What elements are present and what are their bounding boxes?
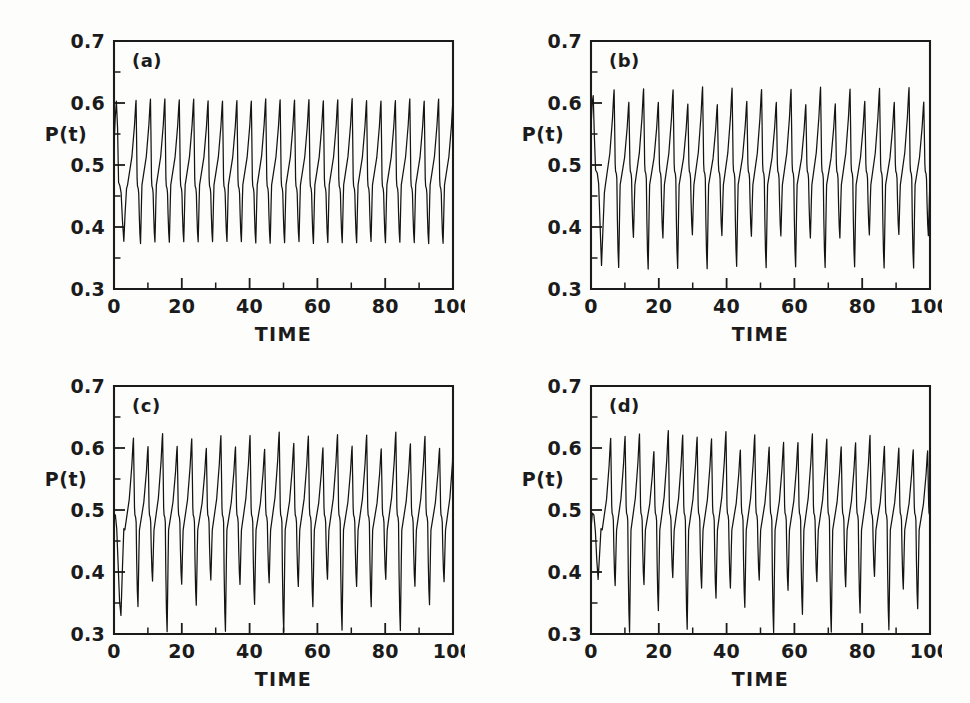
x-axis-title: TIME bbox=[732, 323, 790, 345]
x-tick-label: 100 bbox=[910, 640, 942, 662]
x-tick-label: 60 bbox=[304, 640, 331, 662]
trace-group bbox=[114, 432, 453, 632]
data-trace bbox=[591, 431, 930, 633]
panel-a-svg: 0.30.40.50.60.7020406080100P(t)TIME(a) bbox=[10, 8, 465, 348]
panel-label: (b) bbox=[609, 50, 640, 71]
trace-group bbox=[591, 87, 930, 269]
figure-root: 0.30.40.50.60.7020406080100P(t)TIME(a) 0… bbox=[0, 0, 970, 703]
x-tick-label: 80 bbox=[849, 640, 876, 662]
y-tick-label: 0.3 bbox=[70, 623, 105, 645]
x-tick-label: 20 bbox=[168, 640, 195, 662]
panel-label: (a) bbox=[132, 50, 162, 71]
x-axis-title: TIME bbox=[255, 323, 313, 345]
trace-group bbox=[591, 431, 930, 633]
y-tick-label: 0.7 bbox=[547, 30, 582, 52]
x-tick-label: 100 bbox=[910, 295, 942, 317]
y-tick-label: 0.5 bbox=[547, 499, 582, 521]
x-tick-label: 60 bbox=[781, 295, 808, 317]
x-axis-title: TIME bbox=[255, 668, 313, 690]
x-tick-label: 40 bbox=[713, 295, 740, 317]
x-tick-label: 40 bbox=[236, 640, 263, 662]
y-tick-label: 0.5 bbox=[70, 499, 105, 521]
y-tick-label: 0.6 bbox=[70, 92, 105, 114]
x-tick-label: 80 bbox=[372, 295, 399, 317]
y-axis-title: P(t) bbox=[45, 468, 87, 490]
data-trace bbox=[591, 87, 930, 269]
y-tick-label: 0.7 bbox=[70, 375, 105, 397]
y-tick-label: 0.3 bbox=[547, 278, 582, 300]
panel-a: 0.30.40.50.60.7020406080100P(t)TIME(a) bbox=[10, 8, 465, 348]
y-tick-label: 0.5 bbox=[547, 154, 582, 176]
y-axis-title: P(t) bbox=[45, 123, 87, 145]
panel-d: 0.30.40.50.60.7020406080100P(t)TIME(d) bbox=[487, 353, 942, 693]
plot-frame bbox=[114, 41, 453, 289]
x-tick-label: 0 bbox=[107, 295, 121, 317]
x-axis-title: TIME bbox=[732, 668, 790, 690]
panel-label: (d) bbox=[609, 395, 640, 416]
y-tick-label: 0.6 bbox=[547, 92, 582, 114]
panel-c-svg: 0.30.40.50.60.7020406080100P(t)TIME(c) bbox=[10, 353, 465, 693]
panel-c: 0.30.40.50.60.7020406080100P(t)TIME(c) bbox=[10, 353, 465, 693]
x-tick-label: 60 bbox=[304, 295, 331, 317]
x-tick-label: 100 bbox=[433, 640, 465, 662]
plot-frame bbox=[114, 386, 453, 634]
x-tick-label: 0 bbox=[584, 640, 598, 662]
y-axis-title: P(t) bbox=[522, 123, 564, 145]
data-trace bbox=[114, 432, 453, 632]
trace-group bbox=[114, 99, 453, 244]
x-tick-label: 40 bbox=[236, 295, 263, 317]
x-tick-label: 100 bbox=[433, 295, 465, 317]
data-trace bbox=[114, 99, 453, 244]
y-axis-title: P(t) bbox=[522, 468, 564, 490]
x-tick-label: 80 bbox=[372, 640, 399, 662]
y-tick-label: 0.6 bbox=[70, 437, 105, 459]
x-tick-label: 0 bbox=[584, 295, 598, 317]
panel-b: 0.30.40.50.60.7020406080100P(t)TIME(b) bbox=[487, 8, 942, 348]
x-tick-label: 60 bbox=[781, 640, 808, 662]
panel-label: (c) bbox=[132, 395, 161, 416]
x-tick-label: 80 bbox=[849, 295, 876, 317]
y-tick-label: 0.4 bbox=[70, 561, 105, 583]
y-tick-label: 0.4 bbox=[547, 216, 582, 238]
y-tick-label: 0.6 bbox=[547, 437, 582, 459]
y-tick-label: 0.3 bbox=[547, 623, 582, 645]
plot-frame bbox=[591, 41, 930, 289]
y-tick-label: 0.7 bbox=[547, 375, 582, 397]
y-tick-label: 0.4 bbox=[547, 561, 582, 583]
x-tick-label: 0 bbox=[107, 640, 121, 662]
x-tick-label: 20 bbox=[645, 640, 672, 662]
panel-b-svg: 0.30.40.50.60.7020406080100P(t)TIME(b) bbox=[487, 8, 942, 348]
x-tick-label: 20 bbox=[168, 295, 195, 317]
panel-d-svg: 0.30.40.50.60.7020406080100P(t)TIME(d) bbox=[487, 353, 942, 693]
x-tick-label: 20 bbox=[645, 295, 672, 317]
y-tick-label: 0.4 bbox=[70, 216, 105, 238]
y-tick-label: 0.3 bbox=[70, 278, 105, 300]
x-tick-label: 40 bbox=[713, 640, 740, 662]
y-tick-label: 0.7 bbox=[70, 30, 105, 52]
y-tick-label: 0.5 bbox=[70, 154, 105, 176]
